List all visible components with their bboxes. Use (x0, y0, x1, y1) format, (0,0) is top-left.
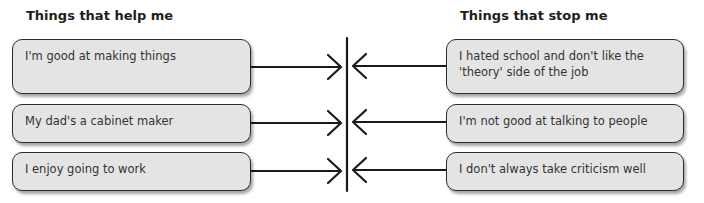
arrow-left-icon (353, 110, 446, 134)
arrow-right-icon (251, 55, 341, 79)
arrow-left-icon (353, 54, 446, 78)
arrow-right-icon (251, 111, 341, 135)
force-field-arrows (0, 0, 704, 203)
arrow-left-icon (353, 158, 446, 182)
arrow-right-icon (251, 159, 341, 183)
